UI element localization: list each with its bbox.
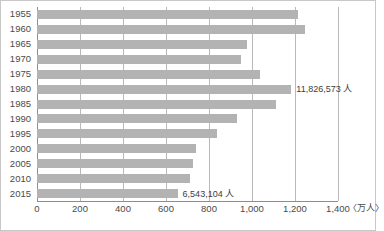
bar-row bbox=[37, 111, 338, 126]
plot-area bbox=[37, 7, 338, 201]
bar-1995 bbox=[37, 129, 217, 138]
x-axis-tick-1400: 1,400 bbox=[326, 204, 350, 214]
bar-rows bbox=[37, 7, 338, 201]
y-axis-label-2005: 2005 bbox=[10, 159, 31, 169]
bar-row bbox=[37, 7, 338, 22]
y-axis-label-1985: 1985 bbox=[10, 99, 31, 109]
x-axis-tick-200: 200 bbox=[72, 204, 88, 214]
y-axis-label-1970: 1970 bbox=[10, 54, 31, 64]
bar-1985 bbox=[37, 100, 276, 109]
bar-row bbox=[37, 141, 338, 156]
x-axis-labels: 02004006008001,0001,2001,400〈万人〉 bbox=[1, 204, 377, 224]
x-axis-baseline bbox=[37, 201, 338, 202]
value-label-2015: 6,543,104 人 bbox=[183, 190, 235, 199]
y-axis-label-1980: 1980 bbox=[10, 84, 31, 94]
bar-row bbox=[37, 22, 338, 37]
x-axis-tick-1000: 1,000 bbox=[240, 204, 264, 214]
x-axis-tick-800: 800 bbox=[201, 204, 217, 214]
y-axis-label-2015: 2015 bbox=[10, 189, 31, 199]
bar-row bbox=[37, 37, 338, 52]
bar-1965 bbox=[37, 40, 247, 49]
y-axis-label-1995: 1995 bbox=[10, 129, 31, 139]
bar-row bbox=[37, 82, 338, 97]
bar-row bbox=[37, 156, 338, 171]
y-axis-labels: 1955196019651970197519801985199019952000… bbox=[1, 7, 34, 201]
x-axis-tick-0: 0 bbox=[34, 204, 39, 214]
bar-row bbox=[37, 97, 338, 112]
y-axis-label-1975: 1975 bbox=[10, 69, 31, 79]
bar-2010 bbox=[37, 174, 190, 183]
bar-1990 bbox=[37, 114, 237, 123]
bar-2005 bbox=[37, 159, 193, 168]
bar-1970 bbox=[37, 55, 241, 64]
gridline-1400 bbox=[338, 7, 339, 201]
y-axis-label-1960: 1960 bbox=[10, 24, 31, 34]
y-axis-label-1990: 1990 bbox=[10, 114, 31, 124]
value-label-1980: 11,826,573 人 bbox=[296, 85, 352, 94]
y-axis-label-1955: 1955 bbox=[10, 9, 31, 19]
bar-row bbox=[37, 171, 338, 186]
bar-row bbox=[37, 126, 338, 141]
y-axis-label-1965: 1965 bbox=[10, 39, 31, 49]
bar-1960 bbox=[37, 25, 305, 34]
bar-2000 bbox=[37, 144, 196, 153]
x-axis-tick-1200: 1,200 bbox=[283, 204, 307, 214]
bar-2015 bbox=[37, 189, 178, 198]
y-axis-label-2010: 2010 bbox=[10, 174, 31, 184]
bar-row bbox=[37, 52, 338, 67]
bar-1955 bbox=[37, 10, 298, 19]
x-axis-unit-label: 〈万人〉 bbox=[348, 204, 384, 213]
x-axis-tick-600: 600 bbox=[158, 204, 174, 214]
bar-row bbox=[37, 67, 338, 82]
x-axis-tick-400: 400 bbox=[115, 204, 131, 214]
y-axis-label-2000: 2000 bbox=[10, 144, 31, 154]
bar-1980 bbox=[37, 85, 291, 94]
bar-1975 bbox=[37, 70, 260, 79]
